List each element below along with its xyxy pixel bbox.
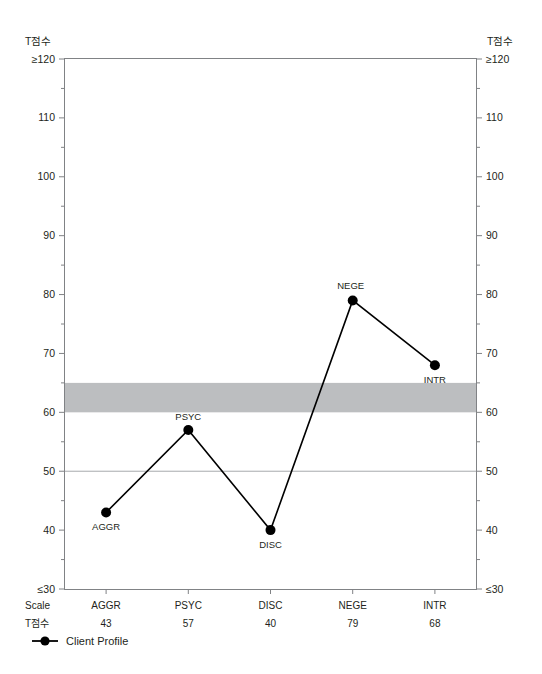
table-cell-tscore: 57 bbox=[183, 618, 195, 629]
legend: Client Profile bbox=[32, 635, 128, 647]
table-cell-tscore: 68 bbox=[429, 618, 441, 629]
row-header-scale: Scale bbox=[25, 600, 50, 611]
y-tick-label: 90 bbox=[486, 229, 498, 241]
y-tick-label: 70 bbox=[43, 347, 55, 359]
table-cell-scale: INTR bbox=[423, 600, 446, 611]
y-tick-label: 70 bbox=[486, 347, 498, 359]
y-axis-left-title: T점수 bbox=[25, 35, 51, 47]
shaded-band-60-65 bbox=[65, 383, 476, 412]
y-tick-label: 100 bbox=[37, 170, 55, 182]
y-tick-label: 90 bbox=[43, 229, 55, 241]
legend-marker-icon bbox=[40, 636, 49, 645]
data-point-label: INTR bbox=[424, 374, 446, 385]
y-tick-label: ≤30 bbox=[486, 583, 504, 595]
y-tick-label: 80 bbox=[486, 288, 498, 300]
data-point-marker bbox=[266, 525, 276, 535]
y-tick-label: 60 bbox=[486, 406, 498, 418]
y-tick-label: ≥120 bbox=[32, 53, 55, 65]
table-cell-scale: DISC bbox=[259, 600, 283, 611]
t-score-profile-chart: ≥120110100908070605040≤30 ≥1201101009080… bbox=[0, 0, 542, 674]
table-cell-tscore: 43 bbox=[101, 618, 113, 629]
data-point-marker bbox=[183, 425, 193, 435]
y-tick-label: 110 bbox=[486, 111, 503, 123]
data-point-marker bbox=[430, 360, 440, 370]
y-tick-label: 50 bbox=[486, 465, 498, 477]
table-cell-scale: NEGE bbox=[339, 600, 368, 611]
legend-label-client-profile: Client Profile bbox=[66, 635, 128, 647]
y-tick-label: ≥120 bbox=[486, 53, 509, 65]
chart-background bbox=[0, 0, 542, 674]
data-point-label: NEGE bbox=[337, 280, 364, 291]
data-point-marker bbox=[348, 295, 358, 305]
data-point-label: PSYC bbox=[175, 411, 201, 422]
y-tick-label: 60 bbox=[43, 406, 55, 418]
y-tick-label: 40 bbox=[486, 524, 498, 536]
y-tick-label: 80 bbox=[43, 288, 55, 300]
row-header-tscore: T점수 bbox=[25, 618, 49, 629]
y-axis-right-title: T점수 bbox=[487, 35, 513, 47]
table-cell-tscore: 40 bbox=[265, 618, 277, 629]
table-cell-scale: PSYC bbox=[175, 600, 202, 611]
chart-canvas: ≥120110100908070605040≤30 ≥1201101009080… bbox=[0, 0, 542, 674]
y-tick-label: ≤30 bbox=[38, 583, 56, 595]
data-point-label: DISC bbox=[259, 539, 282, 550]
y-tick-label: 110 bbox=[38, 111, 55, 123]
table-cell-scale: AGGR bbox=[91, 600, 120, 611]
y-tick-label: 100 bbox=[486, 170, 504, 182]
data-point-label: AGGR bbox=[92, 521, 120, 532]
y-tick-label: 50 bbox=[43, 465, 55, 477]
table-cell-tscore: 79 bbox=[347, 618, 359, 629]
y-tick-label: 40 bbox=[43, 524, 55, 536]
data-point-marker bbox=[101, 507, 111, 517]
